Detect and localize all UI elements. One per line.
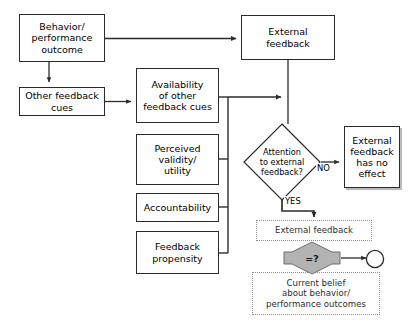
node-attention-decision: Attention to external feedback? [243, 123, 321, 201]
flowchart-diagram: Behavior/ performance outcome Other feed… [0, 0, 414, 330]
comparison-label: =? [283, 241, 341, 275]
node-perceived-validity-utility: Perceived validity/ utility [136, 134, 219, 185]
node-external-feedback: External feedback [241, 15, 335, 60]
node-other-feedback-cues: Other feedback cues [19, 87, 105, 116]
node-accountability: Accountability [136, 193, 219, 222]
outcome-circle-terminal [364, 248, 386, 270]
node-external-feedback-dotted: External feedback [256, 220, 372, 241]
node-comparison-operator: =? [283, 241, 341, 275]
node-feedback-propensity: Feedback propensity [136, 231, 219, 274]
edge-label-yes: YES [284, 196, 302, 206]
attention-decision-label: Attention to external feedback? [243, 123, 321, 201]
edge-label-no: NO [316, 163, 331, 173]
node-availability-of-other-feedback-cues: Availability of other feedback cues [136, 68, 219, 123]
node-behavior-outcome: Behavior/ performance outcome [19, 14, 105, 62]
node-current-belief: Current belief about behavior/ performan… [252, 272, 380, 315]
node-external-feedback-has-no-effect: External feedback has no effect [344, 126, 400, 188]
